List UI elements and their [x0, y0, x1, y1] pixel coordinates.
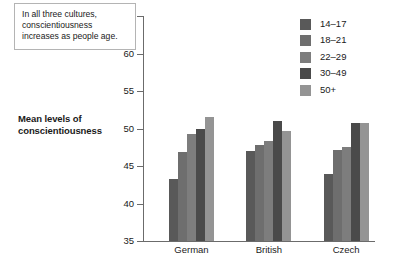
y-tick-label: 55: [123, 86, 134, 96]
bar: [169, 179, 178, 241]
bar-group-british: [246, 16, 291, 241]
legend-label: 30–49: [320, 67, 346, 79]
legend-swatch-icon: [300, 19, 311, 30]
y-axis-title: Mean levels of conscientiousness: [18, 113, 123, 136]
x-axis-label-british: British: [229, 245, 309, 255]
bar: [255, 145, 264, 241]
bar: [333, 150, 342, 241]
bar: [273, 121, 282, 241]
conscientiousness-bar-chart: Mean levels of conscientiousness 6560555…: [0, 0, 403, 272]
bar-group-german: [169, 16, 214, 241]
bar: [178, 152, 187, 241]
y-tick-label: 40: [123, 199, 134, 209]
bar-groups: [143, 16, 375, 241]
y-axis-title-line2: conscientiousness: [18, 125, 123, 137]
legend-label: 14–17: [320, 18, 346, 30]
x-axis-label-german: German: [152, 245, 232, 255]
bar: [342, 147, 351, 242]
legend-swatch-icon: [300, 85, 311, 96]
callout-line-3: increases as people age.: [22, 31, 128, 42]
y-tick-mark: [137, 241, 143, 242]
legend-label: 50+: [320, 84, 336, 96]
bar: [360, 123, 369, 242]
bar-group-czech: [324, 16, 369, 241]
callout-line-1: In all three cultures,: [22, 9, 128, 20]
x-axis-line: [143, 241, 375, 242]
y-tick-label: 35: [123, 236, 134, 246]
callout-annotation: In all three cultures, conscientiousness…: [14, 3, 136, 50]
y-tick-label: 50: [123, 124, 134, 134]
bar: [351, 123, 360, 242]
callout-line-2: conscientiousness: [22, 20, 128, 31]
bar: [324, 174, 333, 242]
y-tick-label: 60: [123, 49, 134, 59]
legend-swatch-icon: [300, 52, 311, 63]
bar: [187, 134, 196, 241]
legend-swatch-icon: [300, 68, 311, 79]
bar: [282, 131, 291, 241]
bar: [196, 129, 205, 242]
bar: [205, 117, 214, 242]
legend-label: 18–21: [320, 34, 346, 46]
y-tick-label: 45: [123, 161, 134, 171]
y-axis-title-line1: Mean levels of: [18, 113, 123, 125]
x-axis-label-czech: Czech: [306, 245, 386, 255]
legend-label: 22–29: [320, 51, 346, 63]
legend-swatch-icon: [300, 35, 311, 46]
bar: [264, 141, 273, 242]
bar: [246, 151, 255, 241]
